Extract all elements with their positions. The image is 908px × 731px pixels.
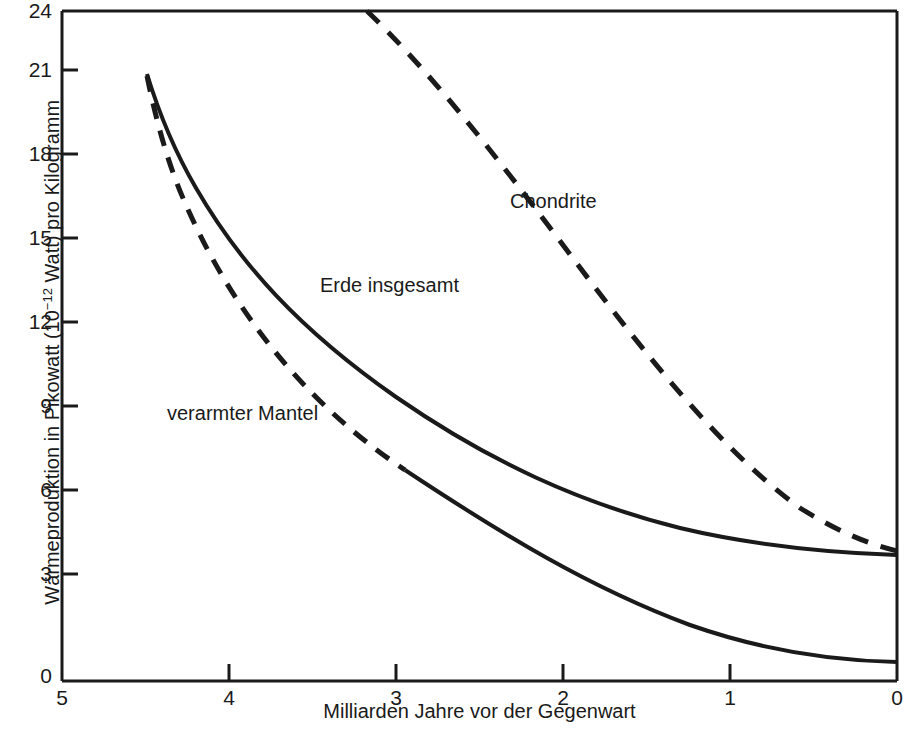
y-axis-title-prefix: Wärmeproduktion in Pikowatt (10 — [41, 310, 63, 605]
axis-frame — [62, 11, 897, 681]
series-line-verarmter-mantel-solid — [405, 470, 897, 662]
series-label-verarmter-mantel: verarmter Mantel — [167, 402, 318, 425]
chart-figure: 24 21 18 15 12 9 6 3 0 5 4 3 2 1 0 Wärme… — [0, 0, 908, 731]
y-axis-title-suffix: Watt) pro Kilogramm — [41, 100, 63, 288]
chart-plot-area — [0, 0, 908, 731]
y-tick-label-0: 0 — [8, 664, 52, 688]
series-label-erde-insgesamt: Erde insgesamt — [320, 274, 459, 297]
y-axis-ticks — [62, 70, 78, 574]
series-line-erde-insgesamt — [147, 74, 897, 555]
y-axis-title-exponent: −12 — [40, 288, 55, 310]
y-axis-title: Wärmeproduktion in Pikowatt (10−12 Watt)… — [40, 42, 65, 662]
series-label-chondrite: Chondrite — [510, 190, 597, 213]
y-tick-label-24: 24 — [8, 0, 52, 23]
x-axis-ticks — [229, 664, 730, 681]
x-axis-title: Milliarden Jahre vor der Gegenwart — [62, 700, 897, 723]
